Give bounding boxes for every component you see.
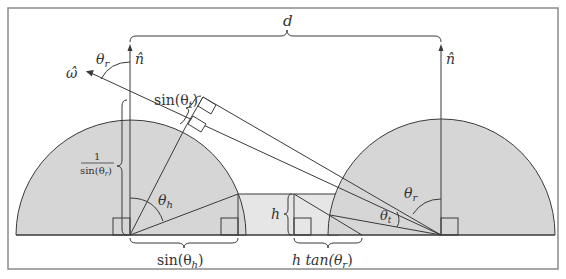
normal-right-label: n̂ <box>446 51 455 67</box>
omega-label: ω̂ <box>66 65 78 81</box>
distance-label: d <box>283 12 293 30</box>
one-over-sin-num: 1 <box>94 151 100 162</box>
normal-left-label: n̂ <box>135 51 144 67</box>
h-label: h <box>271 206 280 222</box>
hemisphere-geometry-diagram: d n̂ n̂ ω̂ θr sin(θt) θh 1 sin(θr) sin(θ… <box>0 0 566 279</box>
